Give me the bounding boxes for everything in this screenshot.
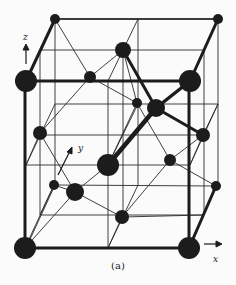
atom — [15, 70, 37, 92]
atom — [211, 181, 221, 191]
atoms — [14, 14, 223, 259]
atom — [132, 98, 142, 108]
y-axis-arrow-icon — [58, 151, 70, 175]
atom — [179, 70, 201, 92]
atom — [84, 71, 96, 83]
atom — [115, 42, 131, 58]
atom — [213, 14, 223, 24]
y-axis-label: y — [78, 144, 83, 153]
atom — [178, 237, 200, 259]
figure-caption: (a) — [0, 260, 236, 271]
atom — [196, 128, 210, 142]
atom — [147, 99, 165, 117]
crystal-structure-diagram — [0, 0, 236, 285]
atom — [49, 180, 59, 190]
atom — [66, 183, 84, 201]
atom — [33, 126, 47, 140]
atom — [164, 154, 176, 166]
atom — [14, 237, 36, 259]
z-axis-label: z — [23, 33, 28, 42]
atom — [97, 154, 119, 176]
atom — [50, 14, 60, 24]
atom — [115, 210, 129, 224]
